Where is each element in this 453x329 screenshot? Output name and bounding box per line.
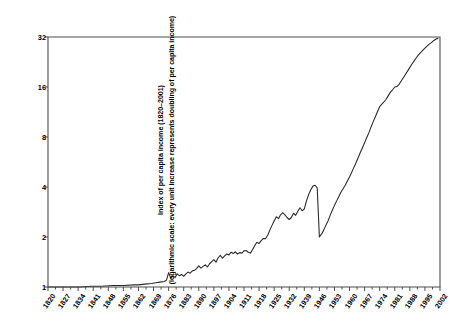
y-tick-label: 16 [22,83,46,92]
y-axis-tick-labels: 12481632 [20,0,46,329]
y-tick-label: 32 [22,33,46,42]
y-tick-label: 8 [22,133,46,142]
chart-figure: Index of per capita income (1820–2001) (… [0,0,453,329]
y-tick-label: 2 [22,233,46,242]
y-axis-title-line-2: (logarithmic scale: every unit increase … [22,0,322,300]
x-axis-tick-labels: 1820182718341841184818551862186918761883… [0,292,453,329]
y-tick-label: 4 [22,183,46,192]
y-tick-label: 1 [22,283,46,292]
